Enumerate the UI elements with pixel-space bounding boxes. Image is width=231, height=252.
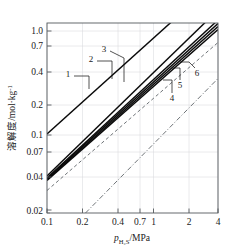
y-axis-title: 溶解度/mol·kg-1 [6,85,17,151]
x-tick-label: 0.4 [112,217,124,227]
x-tick-label: 2 [187,217,192,227]
x-axis-title-subscript: H₂S [119,238,130,245]
y-tick-label: 0.7 [31,41,43,51]
curve-label-6: 6 [195,68,200,78]
curve-label-4: 4 [170,93,175,103]
y-tick-label: 0.04 [26,172,43,182]
x-tick-label: 4 [216,217,221,227]
y-tick-label: 0.1 [31,130,43,140]
curve-label-2: 2 [89,54,94,64]
x-tick-label: 0.2 [77,217,89,227]
y-tick-label: 0.4 [31,67,43,77]
figure-container: 1.0 0.7 0.4 0.2 0.1 0.07 0.04 0.02 0.1 0… [0,0,231,252]
y-tick-label: 1.0 [31,26,43,36]
y-tick-label: 0.2 [31,100,43,110]
y-tick-labels: 1.0 0.7 0.4 0.2 0.1 0.07 0.04 0.02 [26,26,43,216]
x-tick-label: 0.1 [41,217,53,227]
x-tick-label: 1 [151,217,156,227]
x-tick-label: 0.7 [134,217,146,227]
y-axis-title-name: 溶解度 [6,121,17,151]
y-tick-label: 0.02 [26,206,43,216]
y-axis-title-unit: /mol·kg [7,90,17,120]
x-axis-title-unit: /MPa [129,233,150,243]
curve-label-5: 5 [178,80,183,90]
curve-label-1: 1 [66,69,71,79]
solubility-log-log-chart: 1.0 0.7 0.4 0.2 0.1 0.07 0.04 0.02 0.1 0… [0,0,231,252]
x-axis-title: pH₂S/MPa [113,233,151,245]
y-tick-label: 0.07 [26,147,43,157]
y-axis-title-group: 溶解度/mol·kg-1 [6,85,17,151]
curve-label-3: 3 [102,44,107,54]
y-axis-title-exponent: -1 [6,85,13,91]
x-tick-labels: 0.1 0.2 0.4 0.7 1 2 4 [41,217,221,227]
